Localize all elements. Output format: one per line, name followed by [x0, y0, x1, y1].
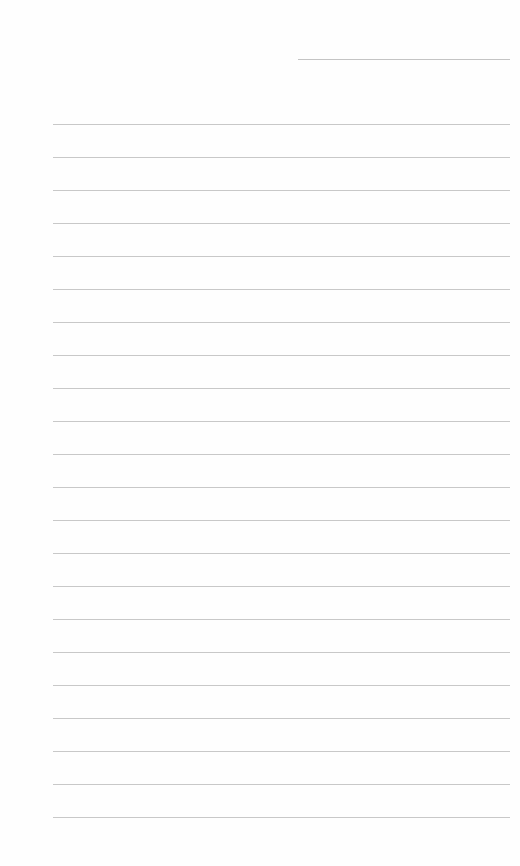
ruled-line: [53, 322, 510, 323]
ruled-line: [53, 619, 510, 620]
ruled-line: [53, 751, 510, 752]
ruled-line: [53, 388, 510, 389]
ruled-line: [53, 454, 510, 455]
ruled-line: [53, 124, 510, 125]
lined-paper-page: [0, 0, 520, 866]
ruled-line: [53, 520, 510, 521]
ruled-line: [53, 685, 510, 686]
ruled-line: [53, 586, 510, 587]
ruled-line: [53, 553, 510, 554]
ruled-line: [53, 784, 510, 785]
ruled-line: [53, 421, 510, 422]
ruled-line: [53, 355, 510, 356]
ruled-line: [53, 157, 510, 158]
ruled-line: [53, 289, 510, 290]
ruled-line: [53, 718, 510, 719]
ruled-line: [53, 190, 510, 191]
ruled-line: [53, 223, 510, 224]
ruled-line: [53, 817, 510, 818]
ruled-line: [53, 487, 510, 488]
ruled-line: [53, 652, 510, 653]
ruled-line: [53, 256, 510, 257]
date-line: [298, 59, 510, 60]
